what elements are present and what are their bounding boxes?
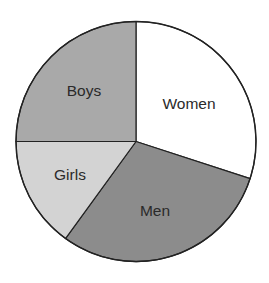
slice-label-women: Women <box>162 95 215 112</box>
pie-slices <box>16 22 256 262</box>
slice-label-girls: Girls <box>54 166 86 183</box>
pie-chart: Women Men Girls Boys <box>0 0 269 283</box>
slice-label-boys: Boys <box>67 82 102 99</box>
slice-label-men: Men <box>140 202 170 219</box>
